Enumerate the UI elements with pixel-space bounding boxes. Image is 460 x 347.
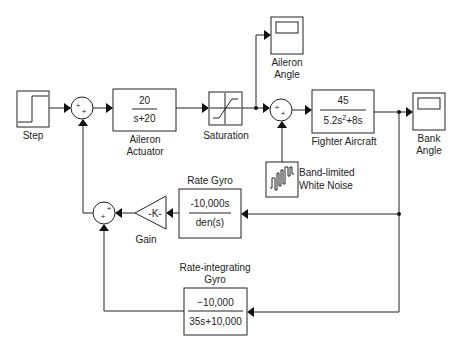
noise-label-1: Band-limited [299, 167, 355, 178]
bank-angle-label-2: Angle [416, 145, 442, 156]
arrow-icon [106, 103, 113, 113]
actuator-numerator: 20 [139, 95, 151, 106]
arrow-icon [247, 307, 254, 317]
step-label: Step [23, 130, 44, 141]
sum1-block[interactable]: + + [71, 97, 93, 119]
rate-gyro-block[interactable]: -10,000s den(s) [179, 189, 241, 238]
saturation-label: Saturation [203, 130, 249, 141]
noise-label-2: White Noise [299, 180, 353, 191]
rig-label-1: Rate-integrating [179, 262, 250, 273]
scope-icon [418, 98, 440, 109]
aircraft-label: Fighter Aircraft [311, 136, 376, 147]
gain-block[interactable]: -K- [135, 196, 166, 229]
arrow-icon [78, 119, 88, 126]
bank-angle-label-1: Bank [418, 133, 442, 144]
aileron-angle-scope[interactable] [271, 17, 303, 54]
sum1-sign-left: + [76, 101, 81, 110]
arrow-icon [166, 208, 173, 218]
rate-integrating-gyro-block[interactable]: −10,000 35s+10,000 [184, 288, 247, 335]
rig-label-2: Gyro [204, 274, 226, 285]
sum3-block[interactable]: + + [93, 202, 115, 224]
rate-gyro-denominator: den(s) [196, 217, 224, 228]
arrow-icon [99, 224, 109, 231]
step-block[interactable] [17, 91, 49, 127]
rig-numerator: −10,000 [197, 297, 234, 308]
saturation-block[interactable] [209, 92, 242, 125]
arrow-icon [406, 107, 413, 117]
actuator-denominator: s+20 [134, 113, 156, 124]
aileron-angle-label-2: Angle [274, 69, 300, 80]
arrow-icon [264, 30, 271, 40]
sum1-sign-bottom: + [82, 107, 87, 116]
bank-angle-scope[interactable] [413, 93, 445, 130]
rate-gyro-label: Rate Gyro [187, 175, 233, 186]
signal-sum3-to-sum1 [83, 124, 93, 213]
sum2-sign-left: + [275, 103, 280, 112]
arrow-icon [277, 121, 287, 128]
white-noise-block[interactable] [266, 162, 298, 197]
signal-to-aileron-angle [256, 35, 266, 108]
fighter-aircraft-block[interactable]: 45 5.2s2+8s [312, 90, 374, 133]
arrow-icon [64, 103, 71, 113]
arrow-icon [202, 103, 209, 113]
block-diagram: Step + + 20 s+20 Aileron Actuator Satura… [0, 0, 460, 347]
arrow-icon [305, 105, 312, 115]
sum3-sign-bottom: + [101, 212, 106, 221]
sum2-sign-bottom: + [281, 109, 286, 118]
rate-gyro-numerator: -10,000s [191, 198, 230, 209]
gain-label: Gain [135, 234, 156, 245]
actuator-label-2: Actuator [126, 146, 164, 157]
aileron-actuator-block[interactable]: 20 s+20 [113, 89, 176, 131]
sum2-block[interactable]: + + [270, 99, 292, 121]
arrow-icon [263, 103, 270, 113]
arrow-icon [115, 208, 122, 218]
scope-icon [276, 22, 298, 33]
sum3-sign-right: + [107, 204, 112, 213]
aileron-angle-label-1: Aileron [271, 57, 302, 68]
arrow-icon [241, 209, 248, 219]
rig-denominator: 35s+10,000 [189, 316, 242, 327]
aircraft-numerator: 45 [337, 95, 349, 106]
gain-value: -K- [148, 208, 161, 219]
actuator-label-1: Aileron [129, 134, 160, 145]
